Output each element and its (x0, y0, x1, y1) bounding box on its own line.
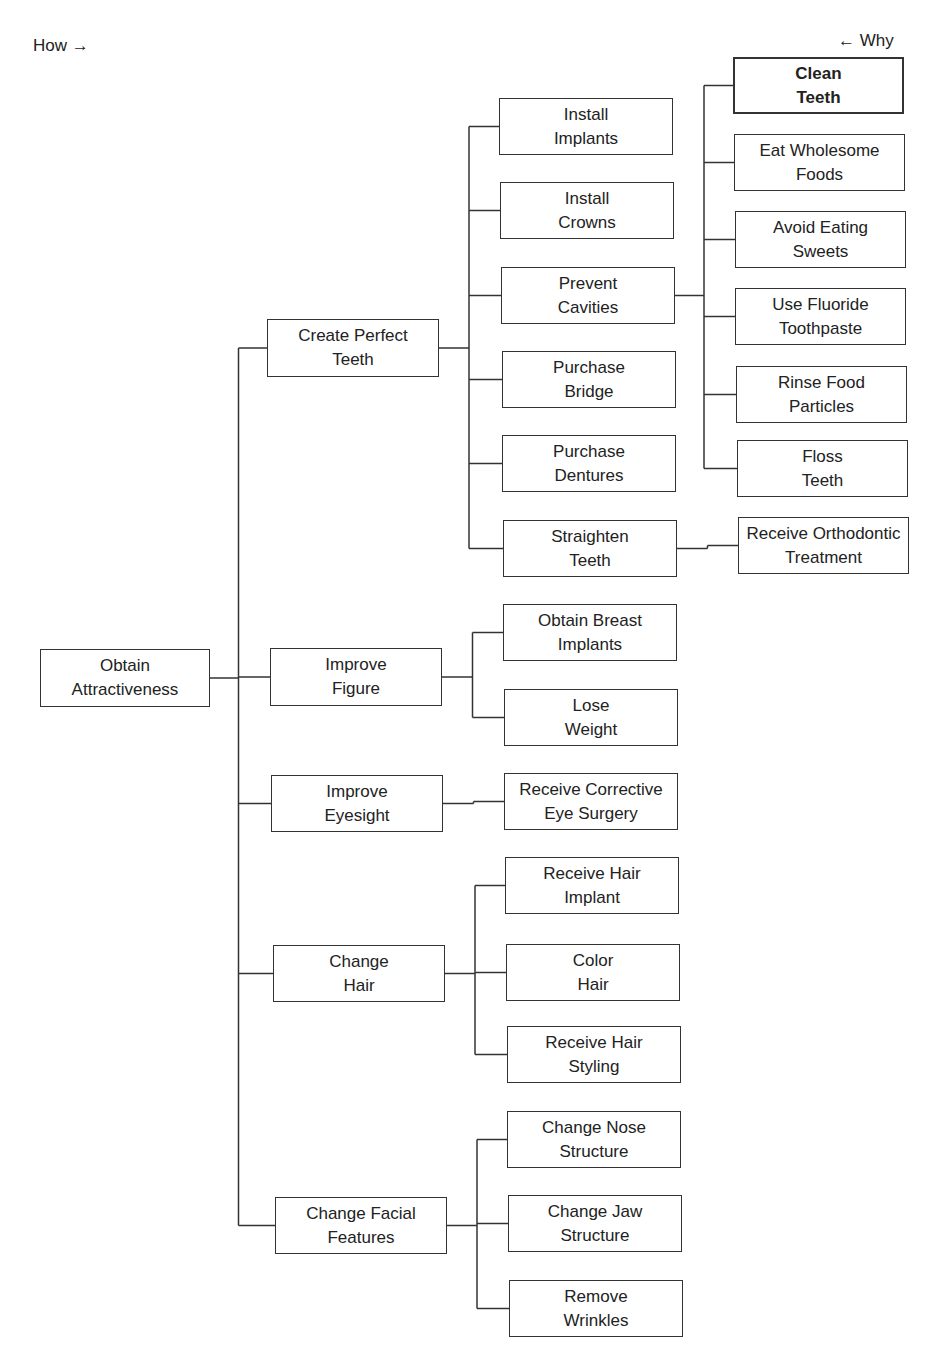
how-why-diagram: How → ← Why Obtain AttractivenessCreate … (0, 0, 939, 1362)
node-color-hair: Color Hair (506, 944, 680, 1001)
node-change-nose-structure: Change Nose Structure (507, 1111, 681, 1168)
node-purchase-bridge: Purchase Bridge (502, 351, 676, 408)
why-direction-label: ← Why (838, 31, 894, 51)
node-change-hair: Change Hair (273, 945, 445, 1002)
node-create-perfect-teeth: Create Perfect Teeth (267, 319, 439, 377)
node-receive-corrective-eye-surgery: Receive Corrective Eye Surgery (504, 773, 678, 830)
node-receive-hair-styling: Receive Hair Styling (507, 1026, 681, 1083)
node-install-implants: Install Implants (499, 98, 673, 155)
node-floss-teeth: Floss Teeth (737, 440, 908, 497)
node-remove-wrinkles: Remove Wrinkles (509, 1280, 683, 1337)
node-avoid-eating-sweets: Avoid Eating Sweets (735, 211, 906, 268)
node-clean-teeth: Clean Teeth (733, 57, 904, 114)
node-obtain-breast-implants: Obtain Breast Implants (503, 604, 677, 661)
node-rinse-food-particles: Rinse Food Particles (736, 366, 907, 423)
node-straighten-teeth: Straighten Teeth (503, 520, 677, 577)
node-improve-figure: Improve Figure (270, 648, 442, 706)
how-direction-label: How → (33, 36, 89, 56)
node-use-fluoride-toothpaste: Use Fluoride Toothpaste (735, 288, 906, 345)
node-purchase-dentures: Purchase Dentures (502, 435, 676, 492)
node-lose-weight: Lose Weight (504, 689, 678, 746)
node-improve-eyesight: Improve Eyesight (271, 775, 443, 832)
node-change-jaw-structure: Change Jaw Structure (508, 1195, 682, 1252)
node-obtain-attractiveness: Obtain Attractiveness (40, 649, 210, 707)
node-receive-orthodontic-treatment: Receive Orthodontic Treatment (738, 517, 909, 574)
node-prevent-cavities: Prevent Cavities (501, 267, 675, 324)
node-eat-wholesome-foods: Eat Wholesome Foods (734, 134, 905, 191)
node-receive-hair-implant: Receive Hair Implant (505, 857, 679, 914)
node-change-facial-features: Change Facial Features (275, 1197, 447, 1254)
node-install-crowns: Install Crowns (500, 182, 674, 239)
